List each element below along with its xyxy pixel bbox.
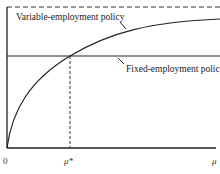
mu-star-label: μ* xyxy=(64,156,73,166)
origin-label: 0 xyxy=(3,156,8,166)
variable-employment-label: Variable-employment policy xyxy=(16,12,124,22)
fixed-label-arrow xyxy=(118,58,124,64)
fixed-employment-label: Fixed-employment policy xyxy=(126,64,220,74)
variable-label-arrow xyxy=(120,22,126,29)
mu-axis-label: μ xyxy=(212,156,217,166)
variable-employment-curve xyxy=(7,19,220,148)
chart-canvas xyxy=(0,0,220,174)
